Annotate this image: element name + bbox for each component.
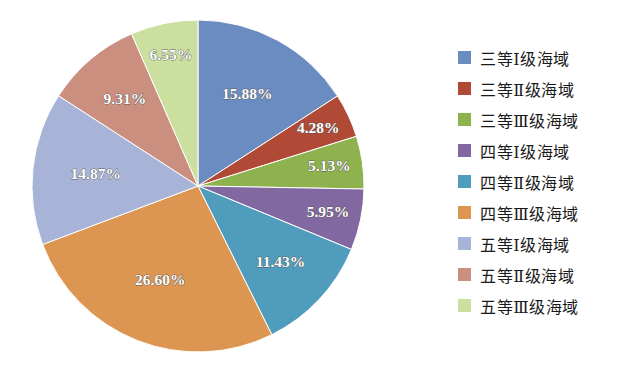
legend-item[interactable]: 五等Ⅲ级海域	[458, 290, 638, 321]
legend-item-label: 四等Ⅲ级海域	[480, 201, 579, 225]
legend-item-label: 五等Ⅲ级海域	[480, 294, 579, 318]
legend-swatch-icon	[458, 268, 471, 281]
legend-item-label: 四等Ⅱ级海域	[480, 170, 574, 194]
legend-item-label: 三等Ⅱ级海域	[480, 77, 574, 101]
pie-slice-label: 5.95%	[307, 203, 350, 220]
legend-item-label: 三等Ⅲ级海域	[480, 108, 579, 132]
legend-item-label: 五等Ⅰ级海域	[480, 232, 570, 256]
legend-swatch-icon	[458, 144, 471, 157]
legend-item[interactable]: 三等Ⅱ级海域	[458, 73, 638, 104]
legend-swatch-icon	[458, 175, 471, 188]
legend-item[interactable]: 五等Ⅱ级海域	[458, 259, 638, 290]
pie-slice-label: 26.60%	[135, 271, 185, 288]
legend-item[interactable]: 四等Ⅱ级海域	[458, 166, 638, 197]
pie-slice-label: 5.13%	[308, 157, 351, 174]
pie-slice-label: 6.55%	[150, 46, 193, 63]
legend-swatch-icon	[458, 113, 471, 126]
legend-item[interactable]: 四等Ⅰ级海域	[458, 135, 638, 166]
legend-swatch-icon	[458, 299, 471, 312]
pie-slice-label: 14.87%	[71, 165, 121, 182]
legend-swatch-icon	[458, 237, 471, 250]
legend-swatch-icon	[458, 82, 471, 95]
pie-chart-plot-area: 15.88%4.28%5.13%5.95%11.43%26.60%14.87%9…	[28, 14, 372, 354]
pie-slice-label: 4.28%	[297, 119, 340, 136]
legend-item[interactable]: 四等Ⅲ级海域	[458, 197, 638, 228]
pie-chart-svg: 15.88%4.28%5.13%5.95%11.43%26.60%14.87%9…	[28, 14, 372, 354]
chart-legend: 三等Ⅰ级海域三等Ⅱ级海域三等Ⅲ级海域四等Ⅰ级海域四等Ⅱ级海域四等Ⅲ级海域五等Ⅰ级…	[458, 42, 638, 321]
pie-slice-label: 15.88%	[222, 85, 272, 102]
pie-slice-group	[32, 20, 364, 352]
pie-slice-label: 11.43%	[256, 253, 306, 270]
legend-item[interactable]: 五等Ⅰ级海域	[458, 228, 638, 259]
pie-slice-label: 9.31%	[104, 90, 147, 107]
pie-chart-figure: 15.88%4.28%5.13%5.95%11.43%26.60%14.87%9…	[0, 0, 644, 368]
legend-item-label: 三等Ⅰ级海域	[480, 46, 570, 70]
legend-item-label: 五等Ⅱ级海域	[480, 263, 574, 287]
legend-item[interactable]: 三等Ⅲ级海域	[458, 104, 638, 135]
legend-item-label: 四等Ⅰ级海域	[480, 139, 570, 163]
legend-swatch-icon	[458, 206, 471, 219]
legend-swatch-icon	[458, 51, 471, 64]
legend-item[interactable]: 三等Ⅰ级海域	[458, 42, 638, 73]
